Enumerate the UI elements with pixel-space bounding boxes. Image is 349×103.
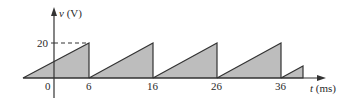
x-tick-label-6: 6 (86, 80, 92, 92)
x-axis-label: t (ms) (310, 82, 336, 95)
x-tick-label-16: 16 (147, 80, 159, 92)
y-axis-arrow-icon (51, 7, 57, 16)
x-axis-arrow-icon (317, 75, 326, 81)
y-axis-label: v (V) (59, 7, 82, 20)
x-tick-label-0: 0 (45, 80, 51, 92)
x-tick-label-36: 36 (275, 80, 287, 92)
sawtooth-diagram: v (V) 20 0 6 16 26 36 t (ms) (0, 0, 349, 103)
x-tick-label-26: 26 (211, 80, 223, 92)
y-tick-label-20: 20 (37, 37, 49, 49)
waveform-fill (23, 43, 303, 78)
